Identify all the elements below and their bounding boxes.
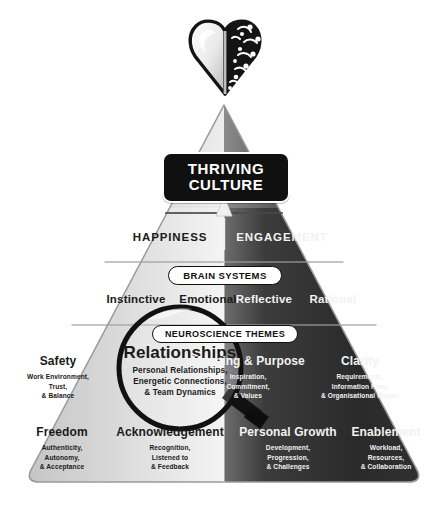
pyramid-shape [0, 100, 448, 490]
heart-brain-icon [180, 14, 272, 102]
infographic-canvas: THRIVING CULTURE HAPPINESS ENGAGEMENT BR… [0, 0, 448, 508]
